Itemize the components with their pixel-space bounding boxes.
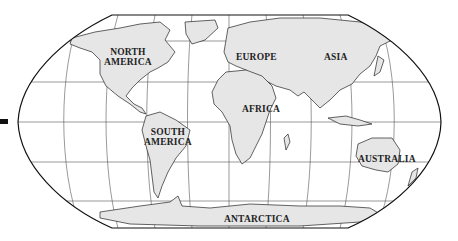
label-south-america-line2: AMERICA <box>144 137 192 147</box>
label-africa: AFRICA <box>242 104 280 114</box>
label-asia: ASIA <box>324 52 348 62</box>
map-graphic <box>0 0 458 241</box>
equator-marker <box>0 119 8 124</box>
label-north-america-line2: AMERICA <box>104 57 152 67</box>
label-north-america-line1: NORTH <box>104 47 152 57</box>
label-antarctica: ANTARCTICA <box>224 214 290 224</box>
label-australia: AUSTRALIA <box>358 154 416 164</box>
label-south-america-line1: SOUTH <box>144 127 192 137</box>
label-north-america: NORTH AMERICA <box>104 47 152 67</box>
world-map: NORTH AMERICA SOUTH AMERICA EUROPE ASIA … <box>0 0 458 241</box>
label-south-america: SOUTH AMERICA <box>144 127 192 147</box>
label-europe: EUROPE <box>236 52 277 62</box>
